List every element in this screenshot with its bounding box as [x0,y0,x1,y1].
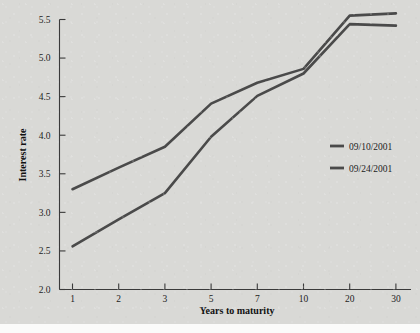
x-axis-tick-labels: 12357102030 [70,294,401,304]
x-axis-tick-label: 1 [70,294,75,304]
y-axis-tick-label: 5.0 [39,53,51,63]
legend-label-1: 09/10/2001 [349,142,393,152]
legend-label-2: 09/24/2001 [349,164,393,174]
x-axis-tick-label: 7 [255,294,260,304]
y-axis-tick-label: 4.5 [39,92,51,102]
y-axis-title: Interest rate [17,128,28,181]
y-axis-tick-label: 2.5 [39,246,51,256]
x-axis-tick-label: 5 [209,294,214,304]
y-axis-tick-label: 4.0 [39,131,51,141]
y-axis-ticks [60,20,66,290]
y-axis-tick-labels: 2.02.53.03.54.04.55.05.5 [39,15,51,295]
x-axis-tick-label: 20 [345,294,355,304]
y-axis-tick-label: 3.0 [39,208,51,218]
page-edge-strip [0,324,420,333]
x-axis-title: Years to maturity [200,305,275,316]
chart-figure: 2.02.53.03.54.04.55.05.5 12357102030 Int… [0,0,420,333]
data-series-group [73,13,396,246]
x-axis-tick-label: 10 [299,294,309,304]
y-axis-tick-label: 5.5 [39,15,51,25]
series-line-2 [73,24,396,246]
x-axis-ticks [73,284,396,290]
y-axis-tick-label: 3.5 [39,169,51,179]
x-axis-tick-label: 2 [116,294,121,304]
line-chart-canvas: 2.02.53.03.54.04.55.05.5 12357102030 Int… [0,0,420,333]
x-axis-tick-label: 3 [163,294,168,304]
y-axis-tick-label: 2.0 [39,285,51,295]
axes [60,20,412,290]
series-line-1 [73,13,396,189]
x-axis-tick-label: 30 [391,294,401,304]
legend: 09/10/200109/24/2001 [330,142,393,174]
